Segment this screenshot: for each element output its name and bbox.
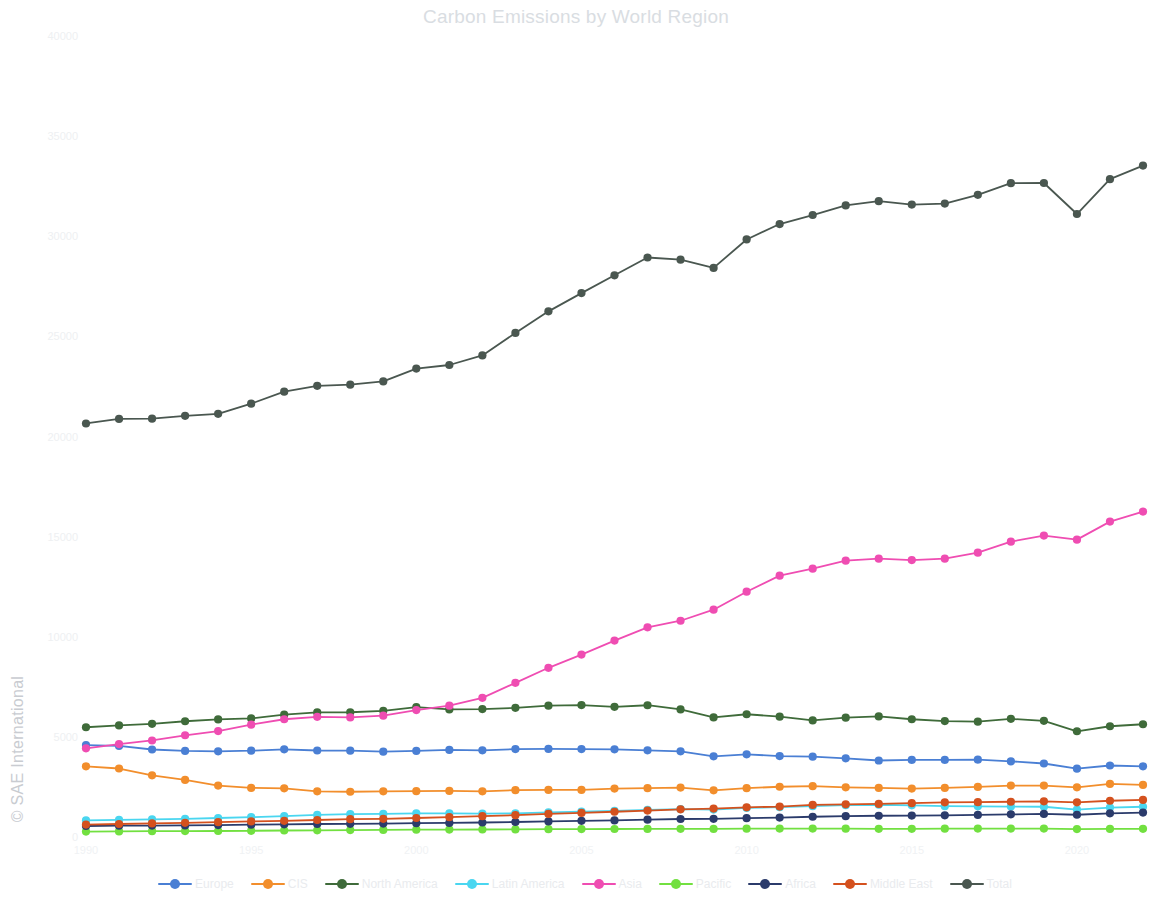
data-point bbox=[214, 715, 222, 723]
data-point bbox=[544, 817, 552, 825]
data-point bbox=[776, 813, 784, 821]
data-point bbox=[247, 817, 255, 825]
data-point bbox=[577, 817, 585, 825]
legend-item-middle-east[interactable]: Middle East bbox=[833, 877, 933, 891]
data-point bbox=[908, 756, 916, 764]
data-point bbox=[842, 714, 850, 722]
data-point bbox=[313, 746, 321, 754]
data-point bbox=[1106, 809, 1114, 817]
data-point bbox=[1139, 720, 1147, 728]
data-point bbox=[1106, 175, 1114, 183]
data-point bbox=[809, 565, 817, 573]
data-point bbox=[1040, 810, 1048, 818]
data-point bbox=[511, 811, 519, 819]
series-asia bbox=[82, 507, 1147, 752]
data-point bbox=[610, 784, 618, 792]
data-point bbox=[181, 412, 189, 420]
data-point bbox=[148, 819, 156, 827]
data-point bbox=[280, 388, 288, 396]
legend-item-latin-america[interactable]: Latin America bbox=[455, 877, 565, 891]
data-point bbox=[941, 825, 949, 833]
data-point bbox=[875, 784, 883, 792]
data-point bbox=[908, 201, 916, 209]
data-point bbox=[676, 815, 684, 823]
legend-item-africa[interactable]: Africa bbox=[748, 877, 816, 891]
legend-item-cis[interactable]: CIS bbox=[251, 877, 308, 891]
data-point bbox=[412, 365, 420, 373]
data-point bbox=[148, 745, 156, 753]
data-point bbox=[743, 588, 751, 596]
data-point bbox=[379, 748, 387, 756]
data-point bbox=[809, 801, 817, 809]
data-point bbox=[181, 747, 189, 755]
data-point bbox=[610, 825, 618, 833]
data-point bbox=[908, 784, 916, 792]
data-point bbox=[809, 824, 817, 832]
data-point bbox=[610, 703, 618, 711]
data-point bbox=[1073, 798, 1081, 806]
data-point bbox=[974, 811, 982, 819]
data-point bbox=[743, 710, 751, 718]
data-point bbox=[676, 705, 684, 713]
data-point bbox=[544, 307, 552, 315]
legend-item-asia[interactable]: Asia bbox=[582, 877, 642, 891]
data-point bbox=[1007, 824, 1015, 832]
legend-marker-icon bbox=[251, 878, 285, 890]
data-point bbox=[544, 786, 552, 794]
data-point bbox=[875, 812, 883, 820]
legend-item-europe[interactable]: Europe bbox=[158, 877, 234, 891]
data-point bbox=[1106, 761, 1114, 769]
data-point bbox=[709, 264, 717, 272]
data-point bbox=[346, 381, 354, 389]
data-point bbox=[610, 636, 618, 644]
data-point bbox=[445, 787, 453, 795]
data-point bbox=[974, 191, 982, 199]
data-point bbox=[577, 289, 585, 297]
data-point bbox=[511, 786, 519, 794]
legend-item-north-america[interactable]: North America bbox=[325, 877, 438, 891]
data-point bbox=[445, 361, 453, 369]
data-point bbox=[709, 752, 717, 760]
data-point bbox=[577, 809, 585, 817]
data-point bbox=[743, 803, 751, 811]
data-point bbox=[181, 776, 189, 784]
data-point bbox=[776, 824, 784, 832]
data-point bbox=[544, 810, 552, 818]
data-point bbox=[445, 813, 453, 821]
data-point bbox=[1007, 781, 1015, 789]
data-point bbox=[809, 753, 817, 761]
legend-item-pacific[interactable]: Pacific bbox=[659, 877, 731, 891]
data-point bbox=[412, 706, 420, 714]
data-point bbox=[544, 825, 552, 833]
data-point bbox=[809, 782, 817, 790]
legend-marker-icon bbox=[158, 878, 192, 890]
data-point bbox=[1106, 722, 1114, 730]
legend-item-total[interactable]: Total bbox=[950, 877, 1012, 891]
series-total bbox=[82, 161, 1147, 427]
data-point bbox=[1073, 210, 1081, 218]
data-point bbox=[280, 745, 288, 753]
data-point bbox=[478, 787, 486, 795]
data-point bbox=[610, 816, 618, 824]
data-point bbox=[1073, 811, 1081, 819]
data-point bbox=[941, 798, 949, 806]
data-point bbox=[115, 740, 123, 748]
legend-item-label: Total bbox=[987, 877, 1012, 891]
legend-marker-icon bbox=[833, 878, 867, 890]
data-point bbox=[643, 746, 651, 754]
series-europe bbox=[82, 741, 1147, 773]
data-point bbox=[643, 253, 651, 261]
data-point bbox=[709, 713, 717, 721]
data-point bbox=[941, 811, 949, 819]
data-point bbox=[941, 784, 949, 792]
data-point bbox=[974, 549, 982, 557]
data-point bbox=[313, 382, 321, 390]
legend-item-label: Pacific bbox=[696, 877, 731, 891]
data-point bbox=[181, 717, 189, 725]
data-point bbox=[1106, 518, 1114, 526]
data-point bbox=[1073, 536, 1081, 544]
data-point bbox=[1040, 781, 1048, 789]
data-point bbox=[577, 650, 585, 658]
data-point bbox=[743, 814, 751, 822]
data-point bbox=[346, 788, 354, 796]
